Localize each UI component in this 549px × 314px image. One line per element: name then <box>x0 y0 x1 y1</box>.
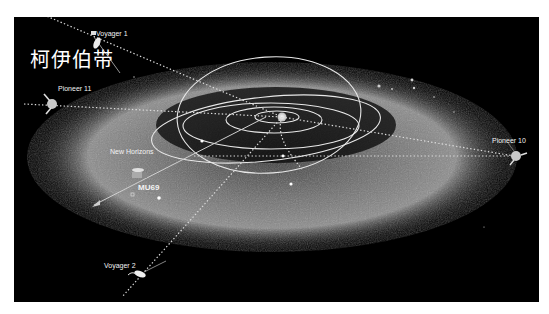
label-pioneer10: Pioneer 10 <box>492 137 526 144</box>
kuiper-belt-diagram: 柯伊伯带 Voyager 1 Pioneer 11 Pioneer 10 New… <box>14 17 539 302</box>
label-pioneer11: Pioneer 11 <box>58 85 91 92</box>
pioneer11-spacecraft-icon <box>44 94 57 114</box>
label-new-horizons: New Horizons <box>110 148 154 155</box>
label-voyager1: Voyager 1 <box>96 30 128 37</box>
kuiper-belt <box>27 62 517 252</box>
label-mu69: MU69 <box>138 183 159 192</box>
diagram-title: 柯伊伯带 <box>30 44 114 73</box>
label-voyager2: Voyager 2 <box>104 262 136 269</box>
